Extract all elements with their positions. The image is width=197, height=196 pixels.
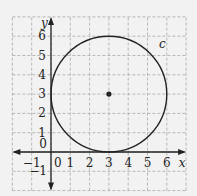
y-tick-label: 6 [38,29,46,43]
x-tick-label: 0 [54,156,62,170]
x-axis-label: x [179,156,186,170]
x-tick-label: 6 [163,156,171,170]
x-tick-label: 3 [105,156,113,170]
tick-labels: −10123456−10123456xyc [23,16,186,178]
x-axis-arrow-right-icon [178,149,186,155]
y-tick-label: 4 [38,68,46,82]
y-axis-arrow-down-icon [48,183,54,191]
x-tick-label: 1 [66,156,74,170]
y-tick-label: 1 [38,126,46,140]
y-tick-label: −1 [29,164,47,178]
center-point [106,92,111,97]
y-tick-label: 3 [38,87,46,101]
y-tick-label: 5 [38,49,46,63]
y-axis-arrow-up-icon [48,17,54,25]
y-axis-label: y [40,16,48,30]
x-axis-arrow-left-icon [12,149,20,155]
x-tick-label: 4 [124,156,132,170]
curve-label-c: c [159,37,166,51]
x-tick-label: 5 [144,156,152,170]
x-tick-label: 2 [86,156,94,170]
y-tick-label: 2 [38,106,46,120]
coordinate-plot: −10123456−10123456xyc [0,0,197,196]
